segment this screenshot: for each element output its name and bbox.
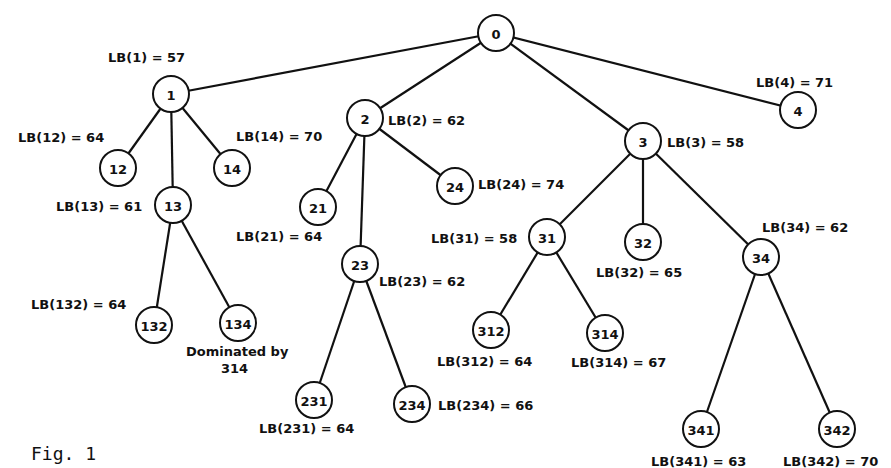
tree-node-312: 312 [473, 312, 509, 348]
lb-label-341: LB(341) = 63 [651, 454, 746, 468]
edge-34-342 [761, 257, 837, 429]
tree-node-32: 32 [625, 224, 661, 260]
dominated-annotation-line1: Dominated by [186, 344, 289, 359]
edge-0-4 [496, 33, 798, 110]
lb-label-1: LB(1) = 57 [108, 50, 185, 65]
tree-node-21: 21 [300, 189, 336, 225]
lb-label-31: LB(31) = 58 [431, 231, 517, 246]
lb-label-24: LB(24) = 74 [478, 177, 564, 192]
edge-34-341 [701, 257, 761, 429]
node-label: 23 [351, 258, 369, 273]
node-label: 1 [166, 88, 175, 103]
lb-label-14: LB(14) = 70 [236, 129, 322, 144]
tree-node-1: 1 [153, 76, 189, 112]
tree-node-34: 34 [743, 239, 779, 275]
tree-node-234: 234 [394, 386, 430, 422]
tree-node-134: 134 [220, 305, 256, 341]
lb-label-234: LB(234) = 66 [438, 398, 533, 413]
tree-node-231: 231 [296, 382, 332, 418]
node-label: 14 [223, 162, 241, 177]
tree-node-24: 24 [437, 168, 473, 204]
lb-label-2: LB(2) = 62 [388, 113, 465, 128]
lb-label-12: LB(12) = 64 [18, 130, 104, 145]
tree-node-4: 4 [780, 92, 816, 128]
tree-node-12: 12 [100, 150, 136, 186]
lb-label-4: LB(4) = 71 [756, 75, 833, 90]
lb-label-23: LB(23) = 62 [379, 274, 465, 289]
node-label: 312 [477, 324, 504, 339]
node-label: 24 [446, 180, 464, 195]
node-label: 341 [687, 423, 714, 438]
tree-node-14: 14 [214, 150, 250, 186]
edge-0-3 [496, 33, 643, 141]
lb-label-314: LB(314) = 67 [571, 355, 666, 370]
node-label: 2 [360, 112, 369, 127]
lb-label-34: LB(34) = 62 [762, 220, 848, 235]
tree-node-341: 341 [683, 411, 719, 447]
lb-label-342: LB(342) = 70 [783, 454, 878, 468]
node-label: 314 [591, 327, 618, 342]
lb-label-3: LB(3) = 58 [667, 135, 744, 150]
lb-label-231: LB(231) = 64 [259, 421, 354, 436]
node-label: 231 [300, 394, 327, 409]
node-label: 234 [398, 398, 425, 413]
edge-23-231 [314, 264, 360, 400]
lb-label-13: LB(13) = 61 [56, 199, 142, 214]
tree-node-0: 0 [478, 15, 514, 51]
node-label: 3 [638, 135, 647, 150]
edge-2-23 [360, 118, 365, 264]
node-label: 4 [793, 104, 802, 119]
lb-label-21: LB(21) = 64 [236, 229, 322, 244]
tree-node-23: 23 [342, 246, 378, 282]
node-label: 134 [224, 317, 251, 332]
node-label: 32 [634, 236, 652, 251]
tree-node-13: 13 [155, 187, 191, 223]
branch-and-bound-tree: 0123412131421232431323413213423123431231… [0, 0, 891, 468]
lb-label-312: LB(312) = 64 [437, 354, 532, 369]
tree-node-314: 314 [587, 315, 623, 351]
lb-label-132: LB(132) = 64 [31, 297, 126, 312]
tree-node-132: 132 [136, 307, 172, 343]
lb-label-32: LB(32) = 65 [596, 265, 682, 280]
tree-node-31: 31 [529, 219, 565, 255]
node-label: 342 [823, 423, 850, 438]
node-label: 34 [752, 251, 770, 266]
node-label: 13 [164, 199, 182, 214]
node-label: 31 [538, 231, 556, 246]
dominated-annotation-line2: 314 [221, 361, 248, 376]
tree-node-342: 342 [819, 411, 855, 447]
node-label: 132 [140, 319, 167, 334]
tree-node-2: 2 [347, 100, 383, 136]
tree-node-3: 3 [625, 123, 661, 159]
edge-13-134 [173, 205, 238, 323]
figure-caption: Fig. 1 [31, 443, 96, 464]
node-label: 0 [491, 27, 500, 42]
node-label: 21 [309, 201, 327, 216]
node-label: 12 [109, 162, 127, 177]
